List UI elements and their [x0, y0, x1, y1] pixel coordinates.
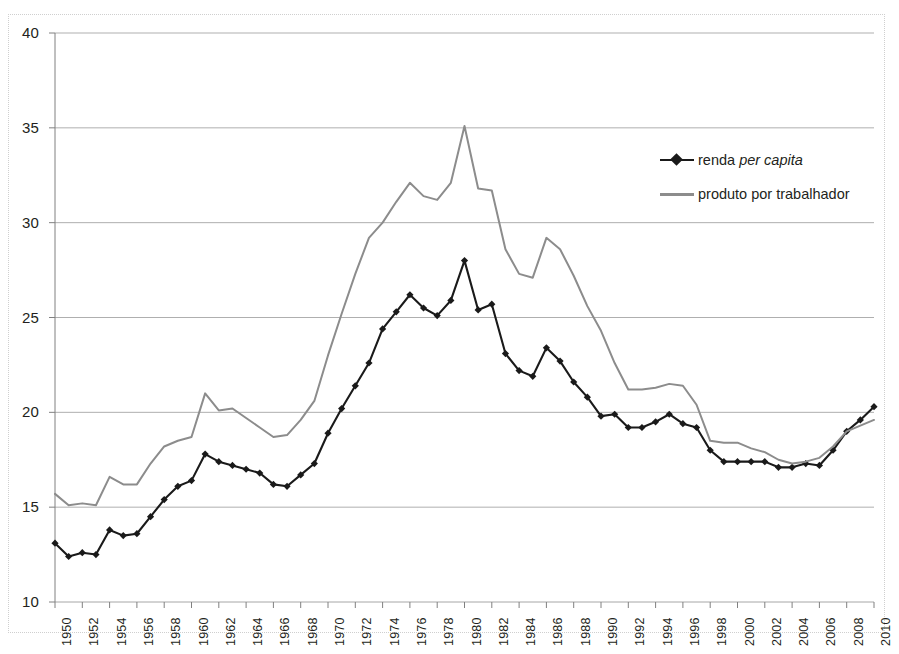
series-marker-0-1993 — [638, 424, 645, 431]
y-tick-label-25: 25 — [7, 309, 39, 326]
x-tick-label-1984: 1984 — [524, 617, 538, 646]
y-tick-label-35: 35 — [7, 119, 39, 136]
legend-item-renda-per-capita: renda per capita — [660, 143, 875, 177]
x-tick-label-1990: 1990 — [606, 617, 620, 646]
series-marker-0-2003 — [775, 464, 782, 471]
y-tick-label-10: 10 — [7, 593, 39, 610]
series-line-0 — [55, 261, 874, 557]
series-marker-0-1960 — [188, 477, 195, 484]
y-tick-label-40: 40 — [7, 24, 39, 41]
x-tick-label-1994: 1994 — [661, 617, 675, 646]
y-tick-label-15: 15 — [7, 498, 39, 515]
x-tick-label-2008: 2008 — [852, 617, 866, 646]
legend-label-renda-per-capita: renda per capita — [698, 152, 803, 168]
series-marker-0-1952 — [79, 549, 86, 556]
x-tick-label-1988: 1988 — [579, 617, 593, 646]
series-marker-0-1982 — [488, 301, 495, 308]
x-tick-label-1996: 1996 — [688, 617, 702, 646]
legend-label-plain-0: renda — [698, 152, 739, 168]
x-tick-label-2000: 2000 — [743, 617, 757, 646]
x-tick-label-1976: 1976 — [415, 617, 429, 646]
x-tick-label-1980: 1980 — [470, 617, 484, 646]
series-marker-0-1980 — [461, 257, 468, 264]
chart-legend: renda per capita produto por trabalhador — [660, 143, 875, 211]
x-tick-label-2002: 2002 — [770, 617, 784, 646]
series-marker-0-2002 — [761, 458, 768, 465]
series-marker-0-1963 — [229, 462, 236, 469]
x-tick-label-2010: 2010 — [879, 617, 893, 646]
x-tick-label-1968: 1968 — [306, 617, 320, 646]
legend-item-produto-por-trabalhador: produto por trabalhador — [660, 177, 875, 211]
series-marker-0-1964 — [243, 466, 250, 473]
x-tick-label-1970: 1970 — [333, 617, 347, 646]
y-tick-label-30: 30 — [7, 214, 39, 231]
legend-label-produto-por-trabalhador: produto por trabalhador — [698, 186, 850, 202]
x-tick-label-1966: 1966 — [278, 617, 292, 646]
x-tick-label-1950: 1950 — [60, 617, 74, 646]
series-marker-0-1955 — [120, 532, 127, 539]
x-tick-label-2004: 2004 — [797, 617, 811, 646]
legend-label-italic-0: per capita — [739, 152, 803, 168]
x-tick-label-1962: 1962 — [224, 617, 238, 646]
x-tick-label-1972: 1972 — [360, 617, 374, 646]
series-marker-0-1981 — [475, 306, 482, 313]
legend-line-icon — [660, 187, 694, 201]
series-marker-0-2000 — [734, 458, 741, 465]
series-marker-0-2004 — [789, 464, 796, 471]
x-tick-label-1986: 1986 — [551, 617, 565, 646]
x-tick-label-1992: 1992 — [633, 617, 647, 646]
x-tick-label-1960: 1960 — [197, 617, 211, 646]
x-tick-label-2006: 2006 — [824, 617, 838, 646]
x-tick-label-1956: 1956 — [142, 617, 156, 646]
series-marker-0-1985 — [529, 373, 536, 380]
x-tick-label-1974: 1974 — [388, 617, 402, 646]
x-tick-label-1958: 1958 — [169, 617, 183, 646]
line-chart-plot — [0, 0, 899, 654]
series-marker-0-2001 — [748, 458, 755, 465]
legend-label-plain-1: produto por trabalhador — [698, 186, 850, 202]
x-tick-label-1978: 1978 — [442, 617, 456, 646]
x-tick-label-1982: 1982 — [497, 617, 511, 646]
legend-line-marker-icon — [660, 153, 694, 167]
x-tick-label-1998: 1998 — [715, 617, 729, 646]
y-tick-label-20: 20 — [7, 403, 39, 420]
x-tick-label-1952: 1952 — [87, 617, 101, 646]
chart-figure: 10152025303540 1950195219541956195819601… — [0, 0, 899, 654]
x-tick-label-1964: 1964 — [251, 617, 265, 646]
x-tick-label-1954: 1954 — [115, 617, 129, 646]
